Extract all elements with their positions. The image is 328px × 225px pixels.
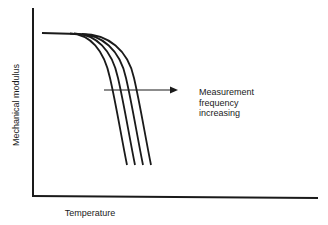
y-axis-label: Mechanical modulus [11,63,21,146]
curve-3 [78,34,143,165]
curve-2 [74,34,135,166]
curve-1 [70,34,127,166]
x-axis [32,196,318,198]
x-axis-label: Temperature [65,208,116,218]
arrow-head-icon [170,87,178,94]
annotation-line-1: Measurement [199,87,255,97]
modulus-temperature-diagram: Measurement frequency increasing Tempera… [0,0,328,225]
annotation-line-2: frequency [199,98,239,108]
annotation-line-3: increasing [199,108,240,118]
